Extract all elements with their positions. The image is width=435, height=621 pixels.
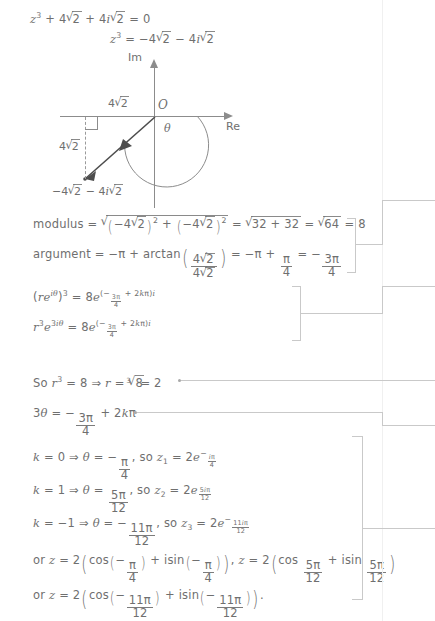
bracket-a-callout [382,200,435,201]
isin-word-2: isin [342,553,362,567]
equation-line-1: z3 + 42 + 4i2 = 0 [30,11,151,26]
worksheet-page: z3 + 42 + 4i2 = 0 z3 = −42 − 4i2 Im Re O… [0,0,435,621]
connector-d-line [137,412,382,413]
bracket-e-top-tick [352,436,363,437]
isin-word-3: isin [179,588,199,602]
r-value-line: So r3 = 8 ⇒ r = 83 = 2 [33,375,162,390]
bracket-b-stem [300,313,383,314]
k-one-line: k = 1 ⇒ θ = 5π12, so z2 = 2e5iπ12 [33,483,212,515]
argand-diagram: Im Re O θ 42 42 −42 − 4i2 [60,50,350,210]
leg-radicand-h: 2 [120,96,129,110]
bracket-b-riser [382,286,383,314]
r-cubed-e-line: r3e3iθ = 8e(−3π4 + 2kπ)i [33,320,151,338]
cos-word-1: cos [89,553,109,567]
leg-radicand-v: 2 [71,139,80,153]
bracket-a-top-tick [347,218,356,219]
bracket-a-bottom-tick [347,272,356,273]
connector-d-riser [382,412,383,426]
modulus-line: modulus = (−42)2 + (−42)2 = 32 + 32 = 64… [33,215,366,236]
isin-word-1: isin [164,553,184,567]
connector-c-line [181,380,435,381]
point-label: −42 − 4i2 [52,184,123,198]
bracket-e-bottom-tick [352,599,363,600]
trig-form-line-1: or z = 2(cos(−π4) + isin(−π4)), z = 2(co… [33,551,396,585]
argument-word: argument [33,247,91,261]
bracket-e-stem [362,528,435,529]
so-word-k0: so [139,450,152,464]
bracket-b-callout [382,286,435,287]
so-word-km1: so [164,516,177,530]
or-word-2: or [33,588,45,602]
re-itheta-cubed-line: (reiθ)3 = 8e(−3π4 + 2kπ)i [33,290,155,308]
bracket-b-top-tick [292,286,301,287]
connector-d-callout [382,425,435,426]
vertical-leg-label: 42 [59,139,80,153]
so-word: So [33,376,48,390]
bracket-a-riser [382,200,383,245]
bracket-e-spine [362,436,363,600]
argument-line: argument = −π + arctan(4242) = −π + π4 =… [33,245,343,280]
bracket-b-bottom-tick [292,340,301,341]
cos-word-3: cos [89,588,109,602]
k-minus-one-line: k = −1 ⇒ θ = −11π12, so z3 = 2e−11iπ12 [33,516,250,548]
trig-form-line-2: or z = 2(cos(−11π12) + isin(−11π12)). [33,586,264,620]
cos-word-2: cos [278,553,298,567]
so-word-k1: so [137,483,150,497]
bracket-a-stem [355,244,383,245]
arctan-word: arctan [143,247,181,261]
right-angle-marker [85,117,98,130]
k-zero-line: k = 0 ⇒ θ = −π4, so z1 = 2e−iπ4 [33,450,217,482]
bracket-a-spine [355,218,356,273]
or-word-1: or [33,553,45,567]
equation-line-2: z3 = −42 − 4i2 [110,31,215,46]
modulus-word: modulus [33,217,84,231]
three-theta-line: 3θ = −3π4 + 2kπ [33,406,136,438]
horizontal-leg-label: 42 [108,96,129,110]
